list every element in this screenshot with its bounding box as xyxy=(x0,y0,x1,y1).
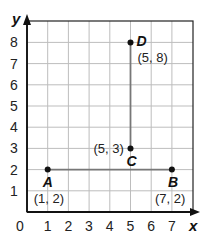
y-tick-label: 6 xyxy=(10,77,18,93)
x-tick-label: 7 xyxy=(168,218,176,234)
point-B xyxy=(169,167,175,173)
y-tick-label: 3 xyxy=(10,140,18,156)
point-label-A: A xyxy=(42,174,53,190)
x-tick-label: 1 xyxy=(44,218,52,234)
y-tick-label: 1 xyxy=(10,183,18,199)
coord-label-B: (7, 2) xyxy=(155,191,185,206)
point-C xyxy=(128,145,134,151)
y-tick-label: 8 xyxy=(10,34,18,50)
x-tick-label: 4 xyxy=(106,218,114,234)
x-tick-label: 0 xyxy=(16,218,24,234)
y-tick-label: 2 xyxy=(10,162,18,178)
y-tick-label: 5 xyxy=(10,98,18,114)
x-tick-label: 6 xyxy=(147,218,155,234)
point-A xyxy=(45,167,51,173)
point-label-D: D xyxy=(137,33,147,49)
x-axis-label: x xyxy=(188,217,198,234)
coordinate-plane: 0123456712345678 x y A(1, 2)B(7, 2)C(5, … xyxy=(0,0,207,239)
y-axis-arrow-icon xyxy=(23,14,31,25)
y-axis-label: y xyxy=(11,10,21,27)
x-tick-label: 2 xyxy=(64,218,72,234)
x-tick-label: 3 xyxy=(85,218,93,234)
coord-label-C: (5, 3) xyxy=(94,141,124,156)
x-tick-label: 5 xyxy=(127,218,135,234)
y-tick-label: 4 xyxy=(10,119,18,135)
point-label-C: C xyxy=(127,153,138,169)
point-D xyxy=(128,39,134,45)
coord-label-A: (1, 2) xyxy=(34,191,64,206)
point-label-B: B xyxy=(168,174,178,190)
x-axis-arrow-icon xyxy=(190,208,200,216)
y-tick-label: 7 xyxy=(10,56,18,72)
coord-label-D: (5, 8) xyxy=(138,50,168,65)
